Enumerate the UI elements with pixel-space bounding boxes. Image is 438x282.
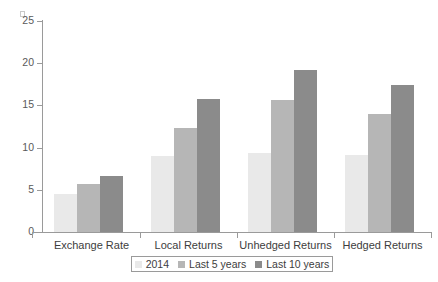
y-axis-tick (37, 63, 42, 64)
y-axis-tick-label-wrap: 5 (0, 190, 34, 191)
x-axis-group-label: Hedged Returns (334, 239, 431, 251)
bar (54, 194, 77, 232)
legend-swatch-icon (135, 261, 142, 268)
x-axis-tick (431, 233, 432, 238)
y-axis-tick-label: 5 (4, 184, 34, 195)
bar (391, 85, 414, 232)
legend-swatch-icon (178, 261, 185, 268)
y-axis-tick-label-wrap: 10 (0, 148, 34, 149)
x-axis-group-label: Unhedged Returns (237, 239, 334, 251)
y-axis-tick-label: 0 (4, 226, 34, 237)
bar (174, 128, 197, 232)
legend-item: Last 10 years (255, 259, 329, 270)
y-axis-tick-label-wrap: 15 (0, 105, 34, 106)
legend-label: Last 5 years (189, 259, 246, 270)
y-axis-tick (37, 148, 42, 149)
legend-item: 2014 (135, 259, 169, 270)
bar (248, 153, 271, 232)
y-axis-tick (37, 21, 42, 22)
bar (197, 99, 220, 232)
y-axis-tick-label-wrap: 25 (0, 21, 34, 22)
y-axis-tick-label: 15 (4, 99, 34, 110)
y-axis-tick-label: 25 (4, 15, 34, 26)
legend-label: Last 10 years (266, 259, 329, 270)
y-axis-tick-label-wrap: 20 (0, 63, 34, 64)
legend-label: 2014 (146, 259, 169, 270)
legend-swatch-icon (255, 261, 262, 268)
bar (368, 114, 391, 232)
x-axis-group-label: Exchange Rate (43, 239, 140, 251)
bar (294, 70, 317, 232)
bar-chart: 0510152025 Exchange RateLocal ReturnsUnh… (0, 0, 438, 282)
y-axis-tick-label: 20 (4, 57, 34, 68)
bar (77, 184, 100, 232)
x-axis-tick (140, 233, 141, 238)
bar (100, 176, 123, 232)
plot-area (43, 21, 431, 232)
bar (345, 155, 368, 232)
x-axis-group-label: Local Returns (140, 239, 237, 251)
chart-legend: 2014Last 5 yearsLast 10 years (131, 256, 333, 272)
y-axis-tick-label-wrap: 0 (0, 232, 34, 233)
y-axis-tick (37, 105, 42, 106)
y-axis-tick (37, 190, 42, 191)
legend-item: Last 5 years (178, 259, 246, 270)
x-axis-tick (334, 233, 335, 238)
y-axis-tick-label: 10 (4, 142, 34, 153)
x-axis-tick (32, 233, 33, 238)
bar (151, 156, 174, 232)
bar (271, 100, 294, 232)
x-axis-tick (237, 233, 238, 238)
x-axis-line (32, 232, 432, 233)
